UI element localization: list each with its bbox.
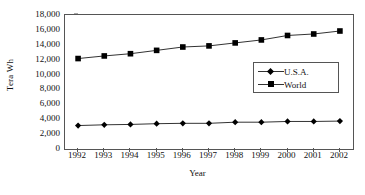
x-tick-mark [77, 148, 78, 152]
legend-label-world: World [284, 80, 306, 90]
legend-item-world: World [254, 78, 338, 91]
y-tick-label: 2,000 [16, 128, 60, 138]
data-point-square [337, 28, 343, 34]
y-tick-label: 14,000 [16, 39, 60, 49]
x-axis-title-text: Year [189, 168, 206, 178]
x-tick-mark [182, 148, 183, 152]
x-tick-mark [103, 148, 104, 152]
data-point-square [311, 31, 317, 37]
data-point-square [128, 51, 134, 57]
x-tick-mark [339, 148, 340, 152]
data-point-square [259, 37, 265, 43]
y-tick-label: 4,000 [16, 113, 60, 123]
data-point-diamond [101, 122, 107, 128]
data-point-square [206, 43, 212, 49]
data-point-diamond [154, 121, 160, 127]
y-tick-label: 18,000 [16, 9, 60, 19]
legend-label-usa: U.S.A. [284, 67, 309, 77]
y-tick-label: 10,000 [16, 69, 60, 79]
x-tick-mark [313, 148, 314, 152]
x-tick-mark [260, 148, 261, 152]
y-tick-label: 12,000 [16, 54, 60, 64]
y-tick-label: 16,000 [16, 24, 60, 34]
data-point-diamond [232, 119, 238, 125]
x-axis-title: Year [0, 168, 365, 178]
y-tick-label: 8,000 [16, 83, 60, 93]
data-point-diamond [311, 118, 317, 124]
x-axis-tick-labels: 1992199319941995199619971998199920002001… [0, 150, 365, 166]
data-point-square [101, 53, 107, 59]
data-point-square [285, 33, 291, 39]
data-point-diamond [258, 119, 264, 125]
legend: U.S.A. World [253, 62, 339, 93]
data-point-diamond [284, 118, 290, 124]
data-point-diamond [75, 122, 81, 128]
data-point-square [75, 56, 81, 62]
y-tick-label: 6,000 [16, 98, 60, 108]
x-tick-mark [287, 148, 288, 152]
chart-figure: Tera Wh 02,0004,0006,0008,00010,00012,00… [0, 0, 365, 195]
data-point-diamond [180, 120, 186, 126]
square-marker-icon [258, 79, 284, 90]
data-point-square [180, 44, 186, 50]
data-point-square [232, 40, 238, 46]
data-point-square [154, 48, 160, 54]
legend-item-usa: U.S.A. [254, 65, 338, 78]
data-point-diamond [337, 118, 343, 124]
x-tick-mark [129, 148, 130, 152]
diamond-marker-icon [258, 66, 284, 77]
data-point-diamond [206, 120, 212, 126]
data-point-diamond [127, 121, 133, 127]
x-tick-mark [208, 148, 209, 152]
x-tick-mark [234, 148, 235, 152]
x-tick-mark [156, 148, 157, 152]
